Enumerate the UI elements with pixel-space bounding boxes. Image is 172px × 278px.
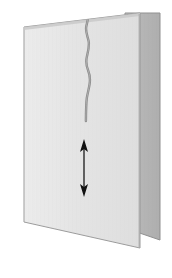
front-panel-group <box>20 8 145 254</box>
figure-root <box>0 0 172 278</box>
folded-card-illustration <box>0 0 172 278</box>
front-panel-texture <box>20 8 145 254</box>
